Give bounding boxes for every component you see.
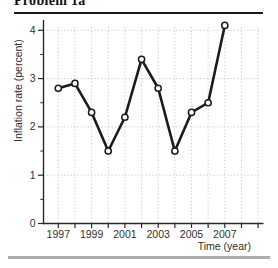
x-tick-label: 1997 (47, 228, 71, 240)
x-tick-label: 2005 (180, 228, 204, 240)
data-point (188, 109, 194, 115)
data-point (172, 148, 178, 154)
chart-canvas: 01234199719992001200320052007 (0, 0, 278, 255)
x-tick-label: 2001 (113, 228, 137, 240)
x-tick-label: 2003 (147, 228, 171, 240)
bottom-bar-divider (8, 256, 270, 259)
x-tick-label: 2007 (213, 228, 237, 240)
y-axis-title: Inflation rate (percent) (12, 16, 24, 166)
data-point (155, 85, 161, 91)
y-tick-label: 1 (30, 169, 36, 181)
data-point (122, 114, 128, 120)
data-point (105, 148, 111, 154)
y-tick-label: 0 (30, 217, 36, 229)
data-point (138, 56, 144, 62)
data-point (205, 100, 211, 106)
data-point (89, 109, 95, 115)
y-tick-label: 4 (30, 24, 36, 36)
y-tick-label: 3 (30, 72, 36, 84)
x-tick-label: 1999 (80, 228, 104, 240)
data-point (55, 85, 61, 91)
y-tick-label: 2 (30, 120, 36, 132)
x-axis-title: Time (year) (198, 240, 251, 252)
data-point (72, 80, 78, 86)
inflation-line-chart: 01234199719992001200320052007 Inflation … (0, 0, 278, 255)
page: Problem 1a 01234199719992001200320052007… (0, 0, 278, 268)
data-point (222, 22, 228, 28)
